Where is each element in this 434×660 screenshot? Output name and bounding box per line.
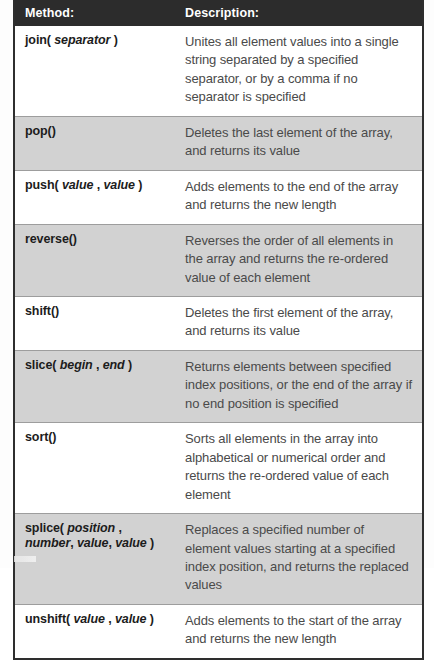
- description-cell: Replaces a specified number of element v…: [173, 514, 422, 605]
- table-row: reverse() Reverses the order of all elem…: [15, 224, 422, 296]
- array-methods-table: Method: Description: join( separator ) U…: [15, 0, 422, 658]
- method-cell: unshift( value , value ): [15, 604, 173, 657]
- method-suffix: ): [135, 178, 142, 192]
- description-cell: Unites all element values into a single …: [173, 26, 422, 116]
- description-cell: Reverses the order of all elements in th…: [173, 224, 422, 296]
- table-row: push( value , value ) Adds elements to t…: [15, 170, 422, 224]
- table-row: join( separator ) Unites all element val…: [15, 26, 422, 116]
- method-separator: ,: [105, 612, 115, 626]
- array-methods-table-container: Method: Description: join( separator ) U…: [13, 0, 424, 660]
- method-cell: splice( position ,number, value, value ): [15, 514, 173, 605]
- table-body: join( separator ) Unites all element val…: [15, 26, 422, 658]
- method-separator: ,: [70, 536, 77, 550]
- method-parameter: value: [73, 612, 104, 626]
- method-name: sort(): [25, 430, 56, 444]
- method-cell: join( separator ): [15, 26, 173, 116]
- method-cell: slice( begin , end ): [15, 350, 173, 422]
- table-row: splice( position ,number, value, value )…: [15, 514, 422, 605]
- description-cell: Returns elements between specified index…: [173, 350, 422, 422]
- description-cell: Deletes the first element of the array, …: [173, 296, 422, 350]
- table-row: slice( begin , end ) Returns elements be…: [15, 350, 422, 422]
- method-parameter: end: [103, 358, 125, 372]
- table-header-row: Method: Description:: [15, 0, 422, 26]
- method-name: pop(): [25, 124, 56, 138]
- method-suffix: ): [147, 536, 154, 550]
- method-parameter: value: [77, 536, 108, 550]
- method-parameter: value: [115, 536, 146, 550]
- description-cell: Sorts all elements in the array into alp…: [173, 423, 422, 514]
- method-parameter: value: [104, 178, 135, 192]
- method-separator: ,: [93, 178, 103, 192]
- method-parameter: position: [67, 521, 115, 535]
- method-cell: pop(): [15, 116, 173, 170]
- description-cell: Adds elements to the start of the array …: [173, 604, 422, 657]
- method-separator: ,: [93, 358, 103, 372]
- method-suffix: ): [125, 358, 132, 372]
- method-name: join(: [25, 33, 54, 47]
- description-cell: Adds elements to the end of the array an…: [173, 170, 422, 224]
- method-name: slice(: [25, 358, 60, 372]
- method-parameter: separator: [54, 33, 110, 47]
- method-name: push(: [25, 178, 62, 192]
- table-row: sort() Sorts all elements in the array i…: [15, 423, 422, 514]
- method-name: shift(): [25, 304, 59, 318]
- table-row: shift() Deletes the first element of the…: [15, 296, 422, 350]
- method-parameter: begin: [60, 358, 93, 372]
- method-cell: push( value , value ): [15, 170, 173, 224]
- method-parameter: number: [25, 536, 70, 550]
- method-name: unshift(: [25, 612, 73, 626]
- method-cell: reverse(): [15, 224, 173, 296]
- table-row: pop() Deletes the last element of the ar…: [15, 116, 422, 170]
- column-header-method: Method:: [15, 0, 173, 26]
- method-cell: sort(): [15, 423, 173, 514]
- table-row: unshift( value , value ) Adds elements t…: [15, 604, 422, 657]
- method-parameter: value: [62, 178, 93, 192]
- method-name: splice(: [25, 521, 67, 535]
- scan-artifact: [14, 556, 36, 562]
- method-separator: ,: [115, 521, 122, 535]
- method-name: reverse(): [25, 232, 77, 246]
- column-header-description: Description:: [173, 0, 422, 26]
- method-suffix: ): [146, 612, 153, 626]
- table-header: Method: Description:: [15, 0, 422, 26]
- method-cell: shift(): [15, 296, 173, 350]
- method-parameter: value: [115, 612, 146, 626]
- description-cell: Deletes the last element of the array, a…: [173, 116, 422, 170]
- method-suffix: ): [110, 33, 117, 47]
